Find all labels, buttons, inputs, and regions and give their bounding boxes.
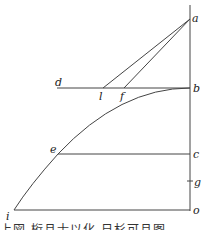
label-d: d [55,76,62,89]
caption-partial: 上図 桁且士以化 日杉可且图 [0,220,209,230]
curve-bei [14,88,190,210]
line-la [103,19,190,88]
label-b: b [193,82,200,95]
label-l: l [99,90,103,103]
label-c: c [193,148,199,161]
label-a: a [192,12,199,25]
label-g: g [194,176,201,189]
line-fa [124,19,190,88]
label-f: f [119,90,126,103]
label-o: o [193,204,200,217]
geometry-diagram: a b c d e f g i l o [0,0,209,230]
label-e: e [50,143,57,156]
